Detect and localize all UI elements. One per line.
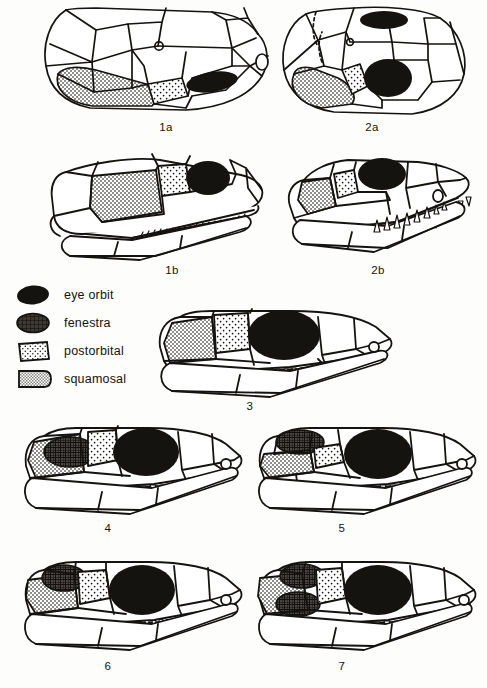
skull-figure: 1a: [0, 0, 487, 688]
legend-label-squamosal: squamosal: [64, 372, 126, 386]
panel-4: [18, 420, 246, 524]
panel-2b: [278, 148, 478, 262]
panel-1b: [40, 148, 268, 262]
panel-caption-1a: 1a: [146, 121, 186, 133]
panel-caption-7: 7: [332, 660, 352, 672]
panel-caption-1b: 1b: [152, 264, 192, 276]
legend-item-postorbital: postorbital: [14, 338, 126, 364]
panel-1a: [36, 4, 276, 120]
postorbital-swatch-icon: [14, 340, 54, 362]
legend-item-fenestra: fenestra: [14, 310, 126, 336]
squamosal-swatch-icon: [14, 368, 54, 390]
legend-item-eye-orbit: eye orbit: [14, 282, 126, 308]
legend-label-eye-orbit: eye orbit: [64, 288, 114, 302]
fenestra-swatch-icon: [14, 312, 54, 334]
legend: eye orbit fenestra: [14, 282, 126, 394]
legend-label-postorbital: postorbital: [64, 344, 124, 358]
panel-3: [150, 305, 398, 405]
panel-5: [252, 420, 480, 524]
panel-caption-6: 6: [98, 660, 118, 672]
panel-caption-3: 3: [240, 400, 260, 412]
legend-label-fenestra: fenestra: [64, 316, 111, 330]
panel-caption-4: 4: [98, 522, 118, 534]
eye-orbit-swatch-icon: [14, 284, 54, 306]
legend-item-squamosal: squamosal: [14, 366, 126, 392]
panel-6: [18, 552, 246, 662]
panel-caption-5: 5: [332, 522, 352, 534]
panel-7: [252, 552, 480, 662]
panel-2a: [272, 4, 472, 120]
panel-caption-2b: 2b: [358, 264, 398, 276]
panel-caption-2a: 2a: [352, 121, 392, 133]
